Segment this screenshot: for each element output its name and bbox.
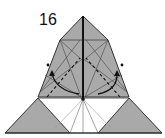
reference-dot-right bbox=[121, 64, 124, 67]
origami-diagram bbox=[0, 0, 165, 138]
reference-dot-left bbox=[47, 64, 50, 67]
reference-dot-center bbox=[81, 97, 85, 101]
